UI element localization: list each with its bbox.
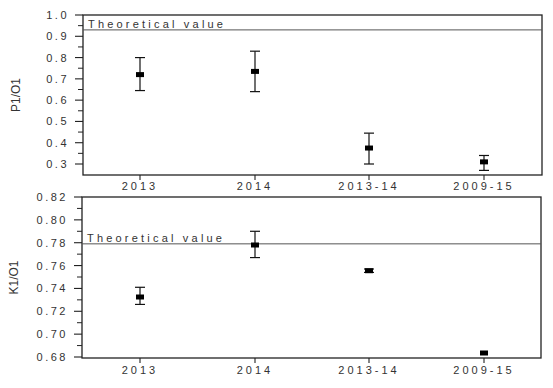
data-point bbox=[135, 58, 145, 91]
y-tick-label: 0.78 bbox=[37, 237, 68, 249]
chart-figure: 1.00.90.80.70.60.50.40.3P1/O120132014201… bbox=[0, 0, 553, 388]
point-marker bbox=[365, 268, 373, 273]
x-axis: 201320142013-142009-15 bbox=[122, 175, 515, 192]
point-marker bbox=[480, 351, 488, 356]
data-point bbox=[480, 351, 488, 356]
y-tick-label: 0.8 bbox=[46, 52, 69, 64]
point-marker bbox=[251, 69, 259, 74]
y-tick-label: 0.9 bbox=[46, 30, 69, 42]
y-tick-label: 0.3 bbox=[46, 158, 69, 170]
data-point bbox=[250, 231, 260, 257]
x-tick-label: 2013-14 bbox=[338, 364, 399, 376]
y-tick-label: 0.70 bbox=[37, 328, 68, 340]
y-axis-label: P1/O1 bbox=[9, 78, 23, 112]
x-tick-label: 2014 bbox=[237, 180, 273, 192]
y-tick-label: 0.74 bbox=[37, 282, 68, 294]
data-point bbox=[364, 133, 374, 164]
y-tick-label: 0.5 bbox=[46, 115, 69, 127]
x-tick-label: 2009-15 bbox=[453, 180, 514, 192]
plot-frame bbox=[83, 15, 542, 175]
point-marker bbox=[136, 72, 144, 77]
data-point bbox=[135, 287, 145, 304]
y-tick-label: 0.72 bbox=[37, 305, 68, 317]
plot-frame bbox=[82, 197, 541, 358]
x-tick-label: 2014 bbox=[237, 364, 273, 376]
y-tick-label: 0.76 bbox=[37, 260, 68, 272]
x-tick-label: 2013 bbox=[122, 180, 158, 192]
y-axis-label: K1/O1 bbox=[7, 260, 21, 294]
x-tick-label: 2013 bbox=[122, 364, 158, 376]
y-axis: 1.00.90.80.70.60.50.40.3 bbox=[46, 9, 83, 170]
point-marker bbox=[365, 146, 373, 151]
data-point bbox=[364, 268, 374, 273]
x-tick-label: 2009-15 bbox=[453, 364, 514, 376]
data-point bbox=[250, 51, 260, 91]
p1-o1-panel: 1.00.90.80.70.60.50.40.3P1/O120132014201… bbox=[9, 9, 542, 192]
theoretical-value-label: Theoretical value bbox=[87, 232, 225, 244]
y-tick-label: 1.0 bbox=[46, 9, 69, 21]
y-tick-label: 0.80 bbox=[37, 214, 68, 226]
data-point bbox=[479, 155, 489, 170]
y-tick-label: 0.7 bbox=[46, 73, 69, 85]
point-marker bbox=[251, 243, 259, 248]
y-tick-label: 0.82 bbox=[37, 191, 68, 203]
point-marker bbox=[480, 159, 488, 164]
y-axis: 0.820.800.780.760.740.720.700.68 bbox=[37, 191, 82, 363]
x-axis: 201320142013-142009-15 bbox=[122, 358, 515, 376]
x-tick-label: 2013-14 bbox=[338, 180, 399, 192]
point-marker bbox=[136, 295, 144, 300]
theoretical-value-label: Theoretical value bbox=[88, 18, 226, 30]
k1-o1-panel: 0.820.800.780.760.740.720.700.68K1/O1201… bbox=[7, 191, 541, 376]
y-tick-label: 0.6 bbox=[46, 94, 69, 106]
y-tick-label: 0.68 bbox=[37, 351, 68, 363]
y-tick-label: 0.4 bbox=[46, 137, 69, 149]
